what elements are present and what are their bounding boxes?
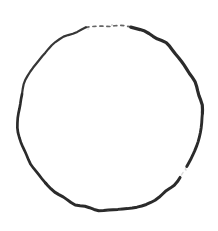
toner-speckle-3 [111,24,113,26]
toner-speckle-6 [185,169,186,170]
paper-background [0,0,218,231]
toner-speckle-4 [119,208,121,210]
toner-speckle-0 [100,25,102,27]
toner-speckle-5 [107,210,109,212]
toner-speckle-1 [94,26,95,27]
toner-speckle-2 [87,28,88,29]
circle-sketch-svg [0,0,218,231]
sketch-canvas: Hand-drawn circle [0,0,218,231]
